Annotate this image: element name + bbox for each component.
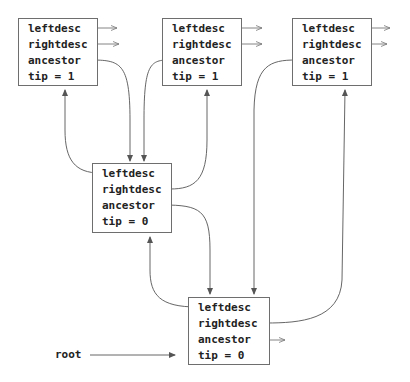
tree-node-e: leftdesc rightdesc ancestor tip = 0 [188,297,270,365]
field-leftdesc: leftdesc [302,21,371,37]
edge-E-rightdesc-to-C [266,90,345,323]
field-rightdesc: rightdesc [28,37,97,53]
field-leftdesc: leftdesc [102,166,171,182]
field-tip: tip = 1 [302,69,371,85]
field-rightdesc: rightdesc [102,182,171,198]
field-ancestor: ancestor [198,332,269,348]
tree-node-b: leftdesc rightdesc ancestor tip = 1 [162,18,242,86]
field-tip: tip = 1 [172,69,241,85]
field-rightdesc: rightdesc [302,37,371,53]
tree-node-c: leftdesc rightdesc ancestor tip = 1 [292,18,372,86]
tree-node-d: leftdesc rightdesc ancestor tip = 0 [92,163,172,233]
field-ancestor: ancestor [302,53,371,69]
edge-C-ancestor-to-E [254,60,296,294]
field-ancestor: ancestor [28,53,97,69]
tree-node-a: leftdesc rightdesc ancestor tip = 1 [18,18,98,86]
edge-D-leftdesc-to-A [65,90,100,173]
field-tip: tip = 0 [198,348,269,364]
field-leftdesc: leftdesc [198,300,269,316]
field-ancestor: ancestor [102,198,171,214]
field-leftdesc: leftdesc [172,21,241,37]
field-leftdesc: leftdesc [28,21,97,37]
field-tip: tip = 1 [28,69,97,85]
field-tip: tip = 0 [102,214,171,230]
field-ancestor: ancestor [172,53,241,69]
root-label: root [55,348,82,361]
field-rightdesc: rightdesc [172,37,241,53]
diagram-canvas: leftdesc rightdesc ancestor tip = 1 left… [0,0,410,382]
edge-D-rightdesc-to-B [170,90,207,189]
field-rightdesc: rightdesc [198,316,269,332]
